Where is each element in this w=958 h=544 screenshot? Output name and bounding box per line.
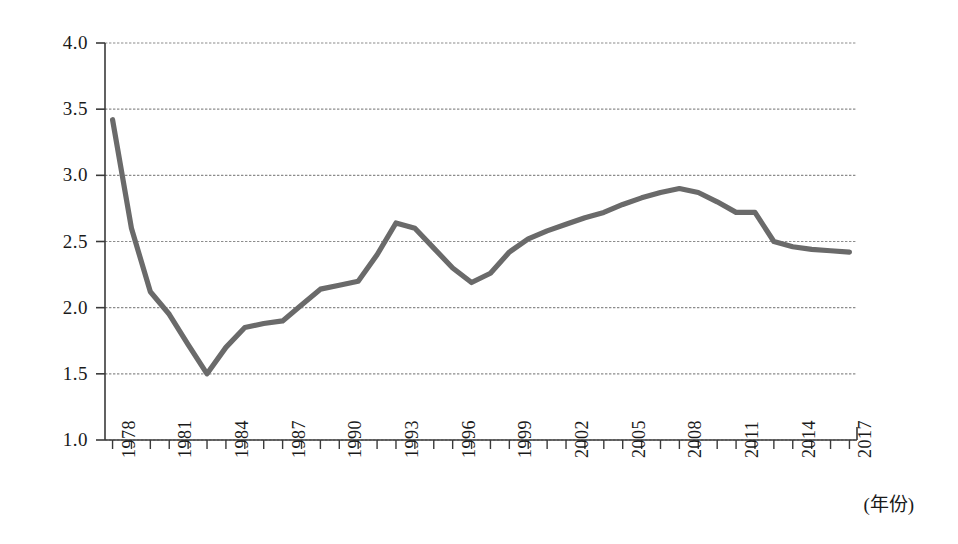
x-axis-tick-label: 2005: [630, 420, 648, 458]
x-axis-tick-label: 1978: [120, 420, 138, 458]
y-axis-tick-label: 2.5: [30, 232, 88, 251]
x-axis-tick-label: 1993: [403, 420, 421, 458]
y-axis-tick-label: 2.0: [30, 298, 88, 317]
y-axis-tick-label: 3.0: [30, 165, 88, 184]
x-axis-tick-label: 1984: [233, 420, 251, 458]
x-axis-tick-label: 2014: [800, 420, 818, 458]
x-axis-tick-label: 2017: [856, 420, 874, 458]
x-axis-ticks: [113, 440, 850, 449]
y-axis-tick-label: 1.0: [30, 430, 88, 449]
y-axis-tick-label: 1.5: [30, 364, 88, 383]
x-axis-tick-label: 1987: [290, 420, 308, 458]
y-axis-tick-label: 3.5: [30, 99, 88, 118]
x-axis-tick-label: 1990: [346, 420, 364, 458]
gridlines: [105, 43, 857, 440]
x-axis-title: (年份): [863, 495, 914, 514]
x-axis-tick-label: 1981: [176, 420, 194, 458]
y-axis-ticks: [96, 43, 105, 440]
line-chart-plot: [0, 0, 958, 544]
x-axis-tick-label: 1996: [460, 420, 478, 458]
x-axis-tick-label: 2008: [686, 420, 704, 458]
y-axis-tick-label: 4.0: [30, 33, 88, 52]
chart-container: 1.01.52.02.53.03.54.0 197819811984198719…: [0, 0, 958, 544]
x-axis-tick-label: 1999: [516, 420, 534, 458]
x-axis-tick-label: 2002: [573, 420, 591, 458]
data-series-line: [113, 120, 850, 374]
x-axis-tick-label: 2011: [743, 421, 761, 458]
